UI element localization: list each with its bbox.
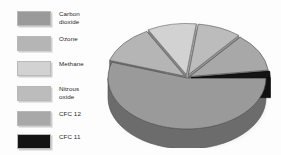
legend-swatch-nitrous-oxide: [17, 86, 51, 101]
legend-item-cfc-11: CFC 11: [17, 134, 109, 155]
legend-swatch-ozone: [17, 36, 51, 51]
pie-chart-svg: [104, 14, 276, 148]
pie-chart: [104, 14, 276, 148]
legend-item-nitrous-oxide: Nitrous oxide: [17, 86, 109, 108]
legend-item-methane: Methane: [17, 61, 109, 83]
legend-item-carbon-dioxide: Carbon dioxide: [17, 11, 109, 33]
legend-swatch-cfc-11: [17, 134, 51, 149]
legend-swatch-carbon-dioxide: [17, 11, 51, 26]
legend-item-cfc-12: CFC 12: [17, 111, 109, 133]
chart-legend: Carbon dioxide Ozone Methane Nitrous oxi…: [17, 11, 109, 147]
legend-item-ozone: Ozone: [17, 36, 109, 58]
pie-chart-figure: Carbon dioxide Ozone Methane Nitrous oxi…: [0, 0, 281, 155]
legend-swatch-methane: [17, 61, 51, 76]
legend-swatch-cfc-12: [17, 111, 51, 126]
